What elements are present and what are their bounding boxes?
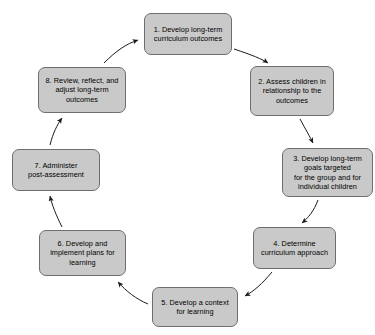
cycle-node-4[interactable]: 4. Determine curriculum approach — [253, 227, 336, 269]
cycle-node-6[interactable]: 6. Develop and implement plans for learn… — [39, 230, 126, 276]
cycle-node-3[interactable]: 3. Develop long-term goals targeted for … — [282, 148, 373, 197]
cycle-node-8[interactable]: 8. Review, reflect, and adjust long-term… — [38, 67, 126, 113]
cycle-node-1[interactable]: 1. Develop long-term curriculum outcomes — [144, 13, 232, 55]
edge-6-to-7 — [50, 196, 62, 227]
cycle-node-7[interactable]: 7. Administer post-assessment — [12, 149, 100, 191]
edge-2-to-3 — [300, 119, 313, 143]
edge-4-to-5 — [245, 272, 272, 296]
cycle-node-5[interactable]: 5. Develop a context for learning — [152, 287, 238, 327]
edge-7-to-8 — [50, 118, 62, 145]
edge-5-to-6 — [118, 282, 148, 304]
cycle-diagram: 1. Develop long-term curriculum outcomes… — [0, 0, 375, 335]
edge-8-to-1 — [104, 40, 138, 63]
edge-3-to-4 — [302, 200, 318, 223]
edge-1-to-2 — [234, 49, 268, 63]
cycle-node-2[interactable]: 2. Assess children in relationship to th… — [250, 66, 334, 116]
